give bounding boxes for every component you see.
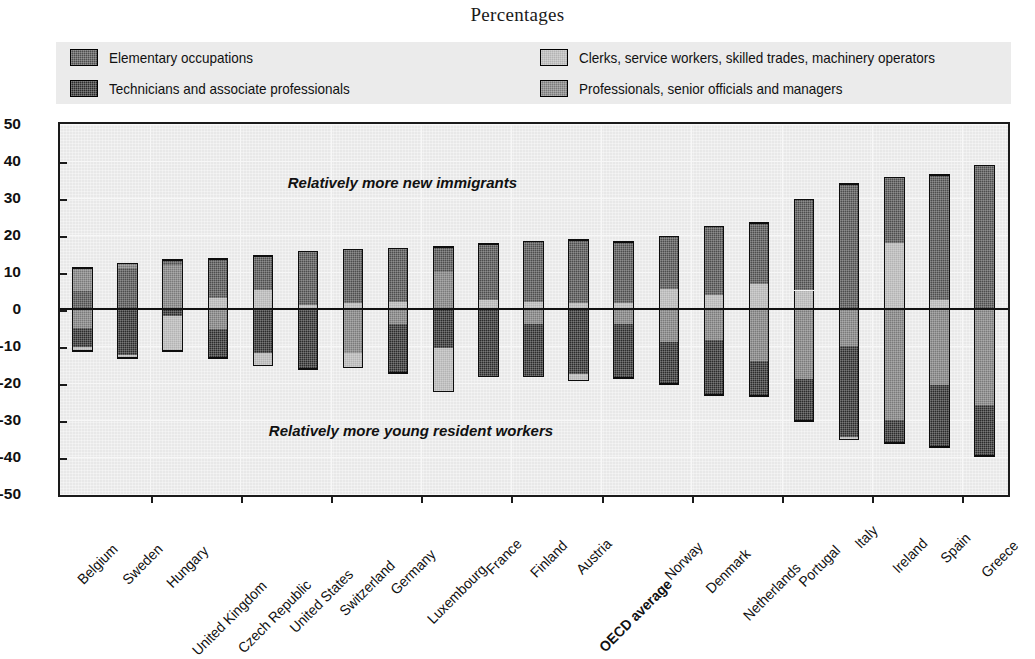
plot-annotation-top: Relatively more new immigrants <box>288 174 517 191</box>
plot-annotation-bottom: Relatively more young resident workers <box>269 422 553 439</box>
legend-item-technicians[interactable]: Technicians and associate professionals <box>56 80 526 97</box>
bar-cap-bottom <box>794 420 815 422</box>
bar-segment-technicians <box>749 361 770 397</box>
bar-cap-bottom <box>433 391 454 393</box>
bar-cap-bottom <box>72 350 93 352</box>
bar-cap-bottom <box>117 357 138 359</box>
y-axis-tick <box>58 310 67 312</box>
bar-segment-clerks <box>659 289 680 309</box>
bar-cap-top <box>72 267 93 269</box>
bar-segment-elementary <box>523 241 544 302</box>
bar-segment-professionals <box>659 309 680 342</box>
x-axis-label-text: OECD average <box>596 576 675 655</box>
bar-cap-bottom <box>839 439 860 441</box>
x-axis-label-ireland: Ireland <box>888 534 931 577</box>
x-axis-label-hungary: Hungary <box>163 542 213 592</box>
y-axis-tick <box>58 236 67 238</box>
x-axis-label-norway: Norway <box>661 538 707 584</box>
bar-segment-professionals <box>343 309 364 353</box>
bar-segment-elementary <box>298 251 319 306</box>
legend-swatch-technicians <box>70 80 98 97</box>
bar-cap-top <box>659 236 680 238</box>
bar-segment-technicians <box>298 309 319 370</box>
x-axis-label-sweden: Sweden <box>118 540 166 588</box>
y-axis-tick <box>58 347 67 349</box>
y-axis-tick-label: -20 <box>0 374 21 392</box>
x-axis-label-oecd-average: OECD average <box>594 574 677 657</box>
x-axis-label-text: France <box>483 536 525 578</box>
x-axis-tick <box>962 495 964 503</box>
bar-cap-top <box>749 222 770 224</box>
bar-cap-bottom <box>929 446 950 448</box>
bar-segment-technicians <box>523 324 544 378</box>
x-axis-label-text: Netherlands <box>740 560 804 624</box>
bar-cap-top <box>704 226 725 228</box>
bar-segment-clerks <box>884 243 905 309</box>
x-axis-label-text: Germany <box>387 546 438 597</box>
bar-segment-professionals <box>72 267 93 291</box>
legend-item-elementary[interactable]: Elementary occupations <box>56 49 526 66</box>
bar-cap-top <box>343 249 364 251</box>
bar-cap-bottom <box>478 376 499 378</box>
y-axis-tick-label: -30 <box>0 411 21 429</box>
bar-segment-clerks <box>162 316 183 351</box>
x-axis-tick <box>331 495 333 503</box>
bar-segment-professionals <box>613 309 634 324</box>
x-axis-label-text: Sweden <box>119 541 166 588</box>
x-axis-label-text: Norway <box>662 539 706 583</box>
bar-cap-bottom <box>659 383 680 385</box>
x-axis-label-italy: Italy <box>851 522 881 552</box>
x-axis-tick <box>782 495 784 503</box>
bar-cap-top <box>117 263 138 265</box>
bar-cap-top <box>253 255 274 257</box>
x-axis-label-text: Hungary <box>163 543 211 591</box>
y-axis-tick <box>58 384 67 386</box>
legend-item-clerks[interactable]: Clerks, service workers, skilled trades,… <box>526 49 1011 66</box>
x-axis-tick <box>872 495 874 503</box>
x-axis-label-text: Austria <box>573 536 615 578</box>
bar-segment-clerks <box>433 348 454 392</box>
bar-segment-elementary <box>478 243 499 300</box>
bar-segment-elementary <box>659 236 680 289</box>
bar-segment-professionals <box>794 309 815 379</box>
plot-area <box>58 122 1010 497</box>
x-axis-label-luxembourg: Luxembourg <box>422 560 490 628</box>
bar-cap-top <box>974 165 995 167</box>
bar-cap-top <box>794 199 815 201</box>
bar-segment-technicians <box>72 328 93 348</box>
bar-segment-technicians <box>659 342 680 385</box>
bar-segment-professionals <box>388 309 409 324</box>
bar-segment-professionals <box>208 309 229 329</box>
bar-segment-professionals <box>433 272 454 309</box>
bar-segment-clerks <box>794 291 815 310</box>
x-axis-tick <box>692 495 694 503</box>
legend-label-professionals: Professionals, senior officials and mana… <box>579 81 843 97</box>
x-axis-label-text: United Kingdom <box>189 578 270 659</box>
y-axis-tick-label: -40 <box>0 448 21 466</box>
bar-cap-top <box>929 174 950 176</box>
x-axis-label-text: Italy <box>851 522 880 551</box>
x-axis-label-greece: Greece <box>977 537 1022 582</box>
bar-segment-professionals <box>523 309 544 324</box>
bar-segment-elementary <box>208 258 229 298</box>
y-axis-tick-label: 0 <box>0 300 21 318</box>
bar-segment-elementary <box>343 249 364 304</box>
bar-segment-technicians <box>929 385 950 448</box>
legend-label-elementary: Elementary occupations <box>109 50 253 66</box>
x-axis-tick <box>602 495 604 503</box>
bar-cap-bottom <box>523 376 544 378</box>
legend-item-professionals[interactable]: Professionals, senior officials and mana… <box>526 80 1011 97</box>
x-axis-label-text: Luxembourg <box>424 561 489 626</box>
bar-segment-professionals <box>884 309 905 420</box>
x-axis-label-belgium: Belgium <box>73 540 121 588</box>
bar-segment-professionals <box>704 309 725 340</box>
x-axis-label-text: Greece <box>978 537 1021 580</box>
bar-cap-bottom <box>974 455 995 457</box>
x-axis-label-france: France <box>482 535 525 578</box>
x-axis-label-text: Finland <box>527 537 570 580</box>
bar-cap-bottom <box>884 442 905 444</box>
bar-segment-technicians <box>388 324 409 374</box>
bar-cap-top <box>433 246 454 248</box>
bar-cap-bottom <box>388 372 409 374</box>
bar-segment-professionals <box>72 309 93 328</box>
